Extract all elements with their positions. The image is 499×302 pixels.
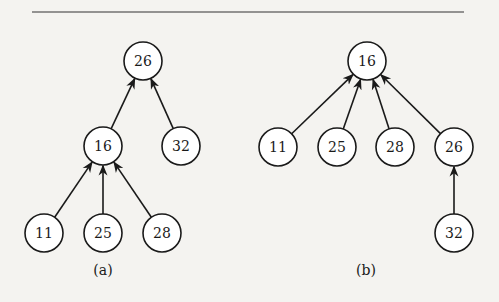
edge-arrow-a11-to-a16: [55, 162, 92, 217]
node-label: 11: [269, 139, 287, 155]
node-label: 11: [35, 225, 53, 241]
node-label: 16: [94, 138, 112, 154]
tree-node-a26: 26: [124, 42, 162, 80]
node-label: 32: [445, 225, 463, 241]
node-label: 28: [386, 139, 404, 155]
tree-node-a32: 32: [162, 127, 200, 165]
node-label: 16: [358, 53, 376, 69]
tree-node-b28: 28: [376, 128, 414, 166]
nodes-layer: 261632112528161125282632: [25, 42, 473, 252]
tree-node-a16: 16: [84, 127, 122, 165]
node-label: 26: [134, 53, 152, 69]
edge-arrow-b26-to-b16: [381, 75, 441, 134]
tree-node-b32: 32: [435, 214, 473, 252]
edge-arrow-a32-to-a26: [151, 79, 173, 129]
tree-node-a25: 25: [84, 214, 122, 252]
node-label: 26: [445, 139, 463, 155]
edge-arrow-a28-to-a16: [114, 162, 151, 217]
tree-node-b11: 11: [259, 128, 297, 166]
edge-arrow-a16-to-a26: [111, 79, 135, 129]
tree-node-b26: 26: [435, 128, 473, 166]
edge-arrow-b11-to-b16: [292, 75, 353, 134]
edge-arrow-b25-to-b16: [343, 79, 360, 129]
node-label: 32: [172, 138, 190, 154]
tree-node-a11: 11: [25, 214, 63, 252]
node-label: 25: [328, 139, 346, 155]
tree-node-a28: 28: [143, 214, 181, 252]
caption-a: (a): [93, 262, 112, 278]
caption-b: (b): [356, 262, 376, 278]
edge-arrow-b28-to-b16: [373, 80, 389, 129]
node-label: 25: [94, 225, 112, 241]
tree-node-b16: 16: [348, 42, 386, 80]
tree-diagram: 261632112528161125282632 (a) (b): [0, 0, 499, 302]
tree-node-b25: 25: [318, 128, 356, 166]
node-label: 28: [153, 225, 171, 241]
